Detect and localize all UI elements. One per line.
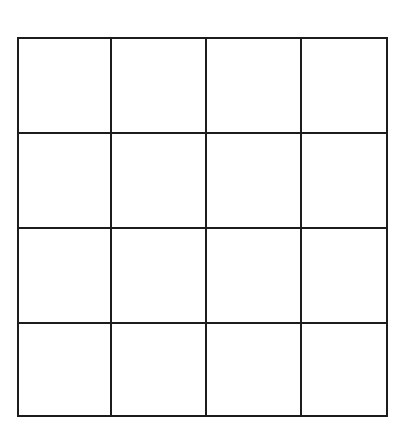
grid-cell-r1-c3 [206,38,301,133]
grid-cell-r2-c4 [301,133,387,228]
grid-cell-r4-c4 [301,323,387,416]
grid-cell-r2-c1 [18,133,111,228]
grid-cell-r1-c1 [18,38,111,133]
grid-cell-r3-c4 [301,228,387,323]
grid-cell-r3-c1 [18,228,111,323]
grid-cell-r3-c3 [206,228,301,323]
grid-cell-r1-c2 [111,38,206,133]
grid-cell-r1-c4 [301,38,387,133]
grid-cell-r4-c1 [18,323,111,416]
grid-cell-r4-c2 [111,323,206,416]
grid-cell-r3-c2 [111,228,206,323]
grid-cell-r2-c2 [111,133,206,228]
grid-cell-r4-c3 [206,323,301,416]
grid-cell-r2-c3 [206,133,301,228]
grid-diagram [0,0,399,444]
